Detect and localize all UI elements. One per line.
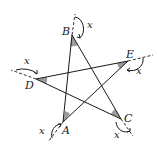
x-label-B: x xyxy=(87,19,93,30)
segment-DC xyxy=(36,79,121,119)
label-E: E xyxy=(125,48,134,61)
extension-D xyxy=(11,70,36,79)
segment-DE xyxy=(36,61,128,79)
interior-angle-shades xyxy=(36,35,128,122)
x-label-D: x xyxy=(24,55,30,66)
label-D: D xyxy=(24,79,34,92)
label-B: B xyxy=(61,25,70,38)
extension-B xyxy=(72,14,75,35)
segment-EA xyxy=(63,61,128,122)
x-label-C: x xyxy=(114,129,120,140)
arrow-B xyxy=(77,34,80,38)
label-A: A xyxy=(61,124,70,137)
x-label-A: x xyxy=(39,125,45,136)
star-diagram: B E D C A x x x x x xyxy=(0,0,157,152)
x-label-E: x xyxy=(136,65,142,76)
label-C: C xyxy=(124,112,133,125)
segment-BA xyxy=(63,35,72,122)
star-lines xyxy=(36,35,128,122)
